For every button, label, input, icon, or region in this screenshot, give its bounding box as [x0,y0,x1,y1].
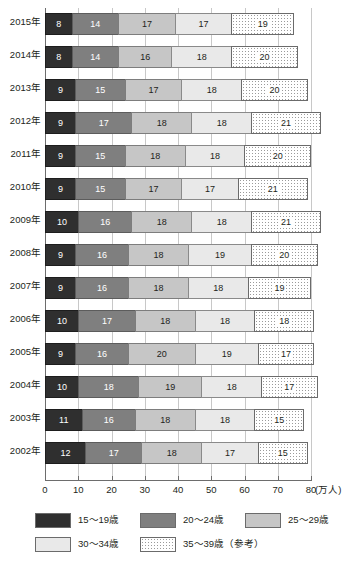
bar-segment-3: 18 [195,409,255,431]
x-tick-label-30: 30 [139,484,150,495]
bar-value-label: 16 [97,349,107,359]
legend-swatch-0 [35,513,71,528]
x-tick-0 [45,476,46,481]
bar-value-label: 9 [58,250,63,260]
row-label-2011年: 2011年 [0,148,41,160]
chart-row: 2003年1116181815 [0,404,352,437]
bar-segment-2: 18 [125,145,185,167]
x-tick-label-20: 20 [106,484,117,495]
legend-row-2: 30〜34歳35〜39歳（参考） [0,532,352,556]
bar-segment-1: 15 [75,145,125,167]
bar-value-label: 16 [100,217,110,227]
bar-segment-0: 11 [45,409,82,431]
bar-segment-2: 17 [125,178,182,200]
legend-row-1: 15〜19歳20〜24歳25〜29歳 [0,508,352,532]
bar-value-label: 15 [272,415,286,425]
x-tick-label-70: 70 [272,484,283,495]
bar-value-label: 19 [222,349,232,359]
bar-segment-0: 9 [45,145,75,167]
legend-item-3[interactable]: 30〜34歳 [35,532,119,556]
chart-row: 2010年915171721 [0,173,352,206]
bar-segment-1: 17 [75,112,132,134]
legend-label-4: 35〜39歳（参考） [183,538,264,550]
bar-segment-3: 19 [195,343,258,365]
x-tick-50 [211,476,212,481]
row-label-2012年: 2012年 [0,115,41,127]
row-label-2009年: 2009年 [0,214,41,226]
bar-value-label: 20 [267,85,281,95]
stacked-bar: 916181920 [45,244,318,266]
stacked-bar: 814161820 [45,46,298,68]
bar-value-label: 18 [213,283,223,293]
legend-item-4[interactable]: 35〜39歳（参考） [140,532,264,556]
bar-value-label: 18 [227,382,237,392]
x-tick-label-50: 50 [206,484,217,495]
bar-segment-3: 17 [175,13,232,35]
bar-value-label: 10 [57,382,67,392]
bar-value-label: 20 [271,151,285,161]
row-label-2014年: 2014年 [0,49,41,61]
bar-segment-2: 18 [141,442,201,464]
bar-value-label: 19 [165,382,175,392]
row-label-2008年: 2008年 [0,247,41,259]
bar-segment-2: 18 [128,277,188,299]
bar-value-label: 21 [266,184,280,194]
bar-segment-2: 19 [138,376,201,398]
bar-value-label: 19 [215,250,225,260]
stacked-bar: 814171719 [45,13,294,35]
legend-item-0[interactable]: 15〜19歳 [35,508,119,532]
bar-segment-4: 15 [254,409,304,431]
x-tick-80 [311,476,312,481]
bar-value-label: 9 [58,283,63,293]
bar-value-label: 9 [58,118,63,128]
bar-segment-3: 18 [195,310,255,332]
chart-row: 2006年1017181818 [0,305,352,338]
bar-segment-4: 17 [261,376,318,398]
stacked-bar: 1017181818 [45,310,314,332]
bar-segment-0: 9 [45,244,75,266]
legend-item-2[interactable]: 25〜29歳 [245,508,329,532]
bar-value-label: 19 [256,19,270,29]
bar-segment-4: 18 [254,310,314,332]
bar-value-label: 17 [99,118,109,128]
bar-segment-3: 18 [171,46,231,68]
x-tick-70 [278,476,279,481]
bar-value-label: 18 [157,217,167,227]
bar-value-label: 16 [97,250,107,260]
bar-segment-2: 17 [125,79,182,101]
legend-item-1[interactable]: 20〜24歳 [140,508,224,532]
bar-value-label: 11 [59,415,68,425]
stacked-bar: 916181819 [45,277,311,299]
bar-segment-0: 9 [45,79,75,101]
bar-value-label: 18 [160,415,170,425]
bar-value-label: 20 [157,349,167,359]
bar-value-label: 9 [58,85,63,95]
bar-value-label: 9 [58,151,63,161]
bar-segment-0: 9 [45,178,75,200]
bar-value-label: 20 [257,52,271,62]
x-tick-10 [78,476,79,481]
bar-segment-1: 16 [75,244,128,266]
bar-segment-0: 8 [45,46,72,68]
bar-segment-0: 9 [45,112,75,134]
bar-segment-4: 17 [258,343,315,365]
bar-segment-1: 16 [75,277,128,299]
bar-segment-4: 15 [258,442,308,464]
bar-value-label: 17 [198,19,208,29]
bar-value-label: 9 [58,349,63,359]
bar-segment-4: 21 [251,112,321,134]
chart-legend: 15〜19歳20〜24歳25〜29歳 30〜34歳35〜39歳（参考） [0,508,352,556]
bar-segment-3: 18 [188,277,248,299]
bar-value-label: 16 [97,283,107,293]
bar-segment-4: 20 [251,244,318,266]
bar-segment-0: 10 [45,310,78,332]
bar-value-label: 18 [157,118,167,128]
bar-value-label: 16 [140,52,150,62]
bar-segment-4: 21 [238,178,308,200]
bar-value-label: 17 [279,349,293,359]
stacked-bar: 1217181715 [45,442,308,464]
chart-row: 2015年814171719 [0,8,352,41]
bar-value-label: 17 [109,448,119,458]
bar-value-label: 18 [154,250,164,260]
bar-value-label: 14 [90,19,100,29]
